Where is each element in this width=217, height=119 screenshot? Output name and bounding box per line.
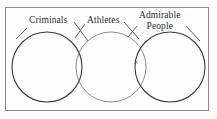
set-label-admirable-people: Admirable People xyxy=(139,10,181,32)
set-label-admirable-line1: Admirable xyxy=(139,10,181,20)
venn-diagram-figure: Criminals Athletes Admirable People × xyxy=(0,0,217,119)
set-label-admirable-line2: People xyxy=(139,21,181,32)
leader-line-criminals-left xyxy=(16,28,27,39)
leader-line-criminals-right xyxy=(74,22,88,41)
element-marker-x-icon: × xyxy=(132,58,141,67)
set-label-criminals: Criminals xyxy=(29,15,67,26)
set-label-athletes: Athletes xyxy=(87,15,119,26)
leader-line-admirable-right xyxy=(186,26,200,41)
leader-line-athletes-right xyxy=(124,22,139,39)
venn-circle-criminals xyxy=(12,32,82,102)
